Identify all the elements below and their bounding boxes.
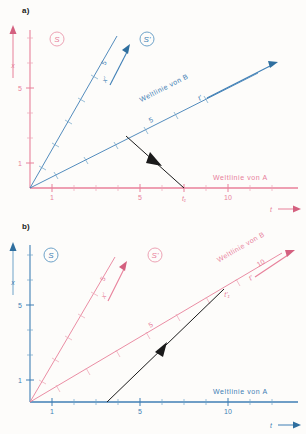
panel-a-t-prime-arrow <box>207 61 278 98</box>
panel-a-x-prime-arrow <box>110 44 130 85</box>
panel-b-x-tick-5: 5 <box>18 302 22 309</box>
panel-b-x-prime-tick-5: 5 <box>99 275 107 282</box>
panel-a-x-tick-1: 1 <box>18 160 22 167</box>
panel-b-t-prime-axis <box>30 253 282 402</box>
panel-b-x-prime-arrow <box>108 261 127 301</box>
panel-a-x-prime-tick-5: 5 <box>100 59 108 66</box>
panel-a-worldline-a-label: Weltlinie von A <box>213 174 268 181</box>
panel-b-frame-s-text: S <box>48 251 54 260</box>
panel-a-t-prime-axis <box>30 73 258 188</box>
panel-b-frame-s-prime: S' <box>148 248 162 262</box>
panel-a-t-axis-label: t <box>270 206 273 213</box>
panel-a-x-prime-axis <box>30 36 117 188</box>
panel-b-x-axis-arrow <box>10 242 17 295</box>
panel-b-t-prime-tick-5: 5 <box>147 321 154 329</box>
panel-b-t-tick-5: 5 <box>138 408 142 415</box>
panel-b-event-label: t'₁ <box>224 291 230 298</box>
panel-a-diagram: 5 1 x 1 5 t₁ 10 <box>0 0 306 217</box>
panel-a-t-tick-10: 10 <box>224 194 232 201</box>
panel-b-frame-s-prime-text: S' <box>152 251 159 260</box>
panel-b-x-tick-1: 1 <box>18 377 22 384</box>
panel-a-t-tick-1: 1 <box>50 194 54 201</box>
panel-b-x-axis <box>26 245 34 402</box>
panel-a-frame-s-text: S <box>54 35 60 44</box>
panel-b-x-axis-label: x <box>10 279 15 286</box>
panel-a-x-tick-5: 5 <box>18 85 22 92</box>
panel-b-t-axis-arrow <box>278 422 301 429</box>
panel-a-x-axis <box>26 30 34 188</box>
panel-b-worldline-b-label: Weltlinie von B <box>216 230 266 263</box>
panel-a-worldline-b-label: Weltlinie von B <box>138 72 189 103</box>
panel-a-frame-s-prime: S' <box>140 32 154 46</box>
panel-b-t-prime-tick-10: 10 <box>256 258 266 268</box>
panel-a-t-axis-arrow <box>278 206 301 213</box>
panel-a-frame-s-prime-text: S' <box>144 35 151 44</box>
panel-b-diagram: 5 1 x 1 5 10 t <box>0 217 306 434</box>
panel-a-x-prime-label: x' <box>100 75 109 84</box>
panel-b: b) 5 1 x <box>0 217 306 434</box>
panel-a-simultaneity-line <box>126 136 184 188</box>
panel-b-t-axis <box>30 398 298 406</box>
panel-a-t-prime-tick-5: 5 <box>148 116 155 124</box>
panel-b-t-tick-10: 10 <box>224 408 232 415</box>
panel-b-x-prime-label: x' <box>99 291 108 300</box>
panel-b-t-prime-label: t' <box>248 274 255 282</box>
panel-b-light-worldline <box>107 289 224 402</box>
panel-a-x-axis-label: x <box>10 62 15 69</box>
panel-b-t-tick-1: 1 <box>50 408 54 415</box>
panel-a-t-tick-5: 5 <box>138 194 142 201</box>
panel-a: a) 5 1 x <box>0 0 306 217</box>
panel-a-frame-s: S <box>50 32 64 46</box>
panel-a-t-prime-label: t' <box>197 94 204 102</box>
panel-a-t-axis <box>30 184 298 192</box>
panel-a-x-axis-arrow <box>10 25 17 78</box>
panel-b-worldline-a-label: Weltlinie von A <box>213 388 268 395</box>
panel-a-t-tick-t1: t₁ <box>182 195 187 202</box>
panel-b-t-axis-label: t <box>270 422 273 429</box>
panel-b-frame-s: S <box>44 248 58 262</box>
